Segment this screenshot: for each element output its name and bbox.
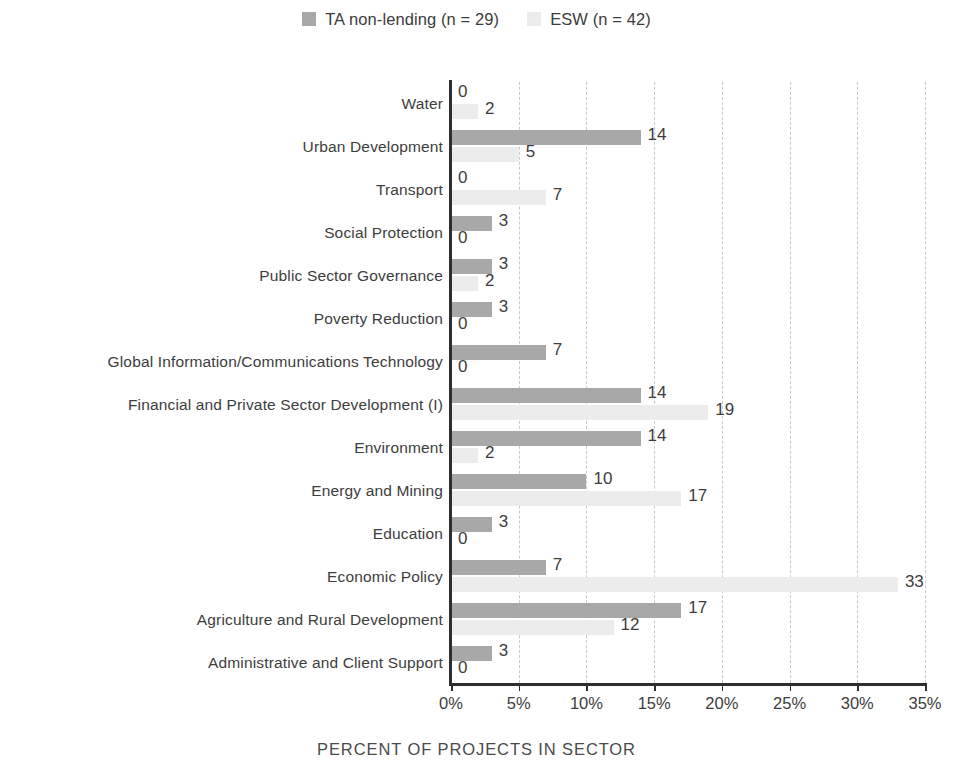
category-label: Agriculture and Rural Development bbox=[197, 598, 443, 641]
category-label: Administrative and Client Support bbox=[208, 641, 443, 684]
bar-esw bbox=[451, 276, 478, 291]
bar-value-label-esw: 33 bbox=[905, 574, 924, 589]
bar-value-label-esw: 2 bbox=[485, 273, 494, 288]
chart-row: Global Information/Communications Techno… bbox=[0, 340, 953, 383]
tick-mark-10% bbox=[586, 683, 588, 691]
x-tick-label: 20% bbox=[705, 694, 738, 713]
y-axis-line bbox=[449, 80, 452, 685]
tick-mark-35% bbox=[925, 683, 927, 691]
bar-value-label-esw: 7 bbox=[553, 187, 562, 202]
category-label: Transport bbox=[376, 168, 443, 211]
chart-row: Economic Policy733 bbox=[0, 555, 953, 598]
x-axis-title: PERCENT OF PROJECTS IN SECTOR bbox=[0, 740, 953, 759]
x-tick-label: 25% bbox=[773, 694, 806, 713]
bar-value-label-esw: 2 bbox=[485, 445, 494, 460]
category-label: Water bbox=[401, 82, 443, 125]
category-label: Environment bbox=[354, 426, 443, 469]
bar-value-label-esw: 0 bbox=[458, 230, 467, 245]
category-label: Global Information/Communications Techno… bbox=[108, 340, 443, 383]
bar-value-label-esw: 2 bbox=[485, 101, 494, 116]
category-label: Urban Development bbox=[303, 125, 443, 168]
bar-ta bbox=[451, 388, 641, 403]
bar-value-label-ta: 3 bbox=[499, 256, 508, 271]
category-label: Public Sector Governance bbox=[259, 254, 443, 297]
bar-ta bbox=[451, 431, 641, 446]
tick-mark-0% bbox=[451, 683, 453, 691]
x-tick-label: 15% bbox=[638, 694, 671, 713]
bar-value-label-esw: 0 bbox=[458, 359, 467, 374]
x-tick-label: 10% bbox=[570, 694, 603, 713]
x-tick-label: 35% bbox=[908, 694, 941, 713]
category-label: Social Protection bbox=[324, 211, 443, 254]
bar-value-label-ta: 3 bbox=[499, 213, 508, 228]
bar-value-label-esw: 0 bbox=[458, 660, 467, 675]
bar-value-label-ta: 14 bbox=[648, 385, 667, 400]
bar-value-label-esw: 17 bbox=[688, 488, 707, 503]
chart-row: Financial and Private Sector Development… bbox=[0, 383, 953, 426]
bar-value-label-ta: 7 bbox=[553, 342, 562, 357]
x-tick-label: 0% bbox=[439, 694, 463, 713]
x-tick-label: 5% bbox=[507, 694, 531, 713]
chart-row: Education30 bbox=[0, 512, 953, 555]
x-axis-line bbox=[449, 683, 927, 686]
bar-esw bbox=[451, 448, 478, 463]
bar-value-label-ta: 14 bbox=[648, 428, 667, 443]
bar-ta bbox=[451, 474, 586, 489]
bar-value-label-esw: 5 bbox=[526, 144, 535, 159]
chart-row: Social Protection30 bbox=[0, 211, 953, 254]
bar-esw bbox=[451, 620, 614, 635]
tick-mark-20% bbox=[722, 683, 724, 691]
bar-ta bbox=[451, 603, 681, 618]
x-tick-label: 30% bbox=[841, 694, 874, 713]
bar-value-label-esw: 19 bbox=[715, 402, 734, 417]
bar-chart: Water02Urban Development145Transport07So… bbox=[0, 0, 953, 775]
tick-mark-15% bbox=[654, 683, 656, 691]
chart-row: Energy and Mining1017 bbox=[0, 469, 953, 512]
chart-row: Public Sector Governance32 bbox=[0, 254, 953, 297]
chart-row: Poverty Reduction30 bbox=[0, 297, 953, 340]
bar-value-label-ta: 10 bbox=[593, 471, 612, 486]
category-label: Economic Policy bbox=[327, 555, 443, 598]
bar-value-label-ta: 0 bbox=[458, 84, 467, 99]
bar-esw bbox=[451, 104, 478, 119]
bar-value-label-esw: 12 bbox=[621, 617, 640, 632]
bar-value-label-ta: 7 bbox=[553, 557, 562, 572]
bar-value-label-ta: 17 bbox=[688, 600, 707, 615]
bar-value-label-ta: 3 bbox=[499, 299, 508, 314]
bar-esw bbox=[451, 405, 708, 420]
bar-ta bbox=[451, 130, 641, 145]
chart-row: Environment142 bbox=[0, 426, 953, 469]
tick-mark-30% bbox=[857, 683, 859, 691]
bar-esw bbox=[451, 147, 519, 162]
chart-row: Administrative and Client Support30 bbox=[0, 641, 953, 684]
bar-esw bbox=[451, 577, 898, 592]
bar-esw bbox=[451, 190, 546, 205]
bar-value-label-ta: 3 bbox=[499, 643, 508, 658]
category-label: Poverty Reduction bbox=[314, 297, 443, 340]
bar-esw bbox=[451, 491, 681, 506]
chart-row: Urban Development145 bbox=[0, 125, 953, 168]
bar-value-label-ta: 3 bbox=[499, 514, 508, 529]
chart-row: Transport07 bbox=[0, 168, 953, 211]
tick-mark-5% bbox=[519, 683, 521, 691]
category-label: Energy and Mining bbox=[311, 469, 443, 512]
bar-ta bbox=[451, 560, 546, 575]
tick-mark-25% bbox=[790, 683, 792, 691]
category-label: Education bbox=[373, 512, 443, 555]
chart-row: Water02 bbox=[0, 82, 953, 125]
bar-value-label-esw: 0 bbox=[458, 531, 467, 546]
bar-value-label-ta: 14 bbox=[648, 127, 667, 142]
bar-value-label-ta: 0 bbox=[458, 170, 467, 185]
bar-value-label-esw: 0 bbox=[458, 316, 467, 331]
category-label: Financial and Private Sector Development… bbox=[128, 383, 443, 426]
chart-row: Agriculture and Rural Development1712 bbox=[0, 598, 953, 641]
